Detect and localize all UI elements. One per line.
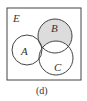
- caption: (d): [36, 85, 48, 97]
- set-b-label: B: [51, 22, 58, 34]
- set-c-label: C: [54, 61, 62, 73]
- set-a-label: A: [20, 45, 28, 57]
- venn-diagram: E A B C (d): [0, 0, 87, 101]
- universe-label: E: [12, 12, 20, 24]
